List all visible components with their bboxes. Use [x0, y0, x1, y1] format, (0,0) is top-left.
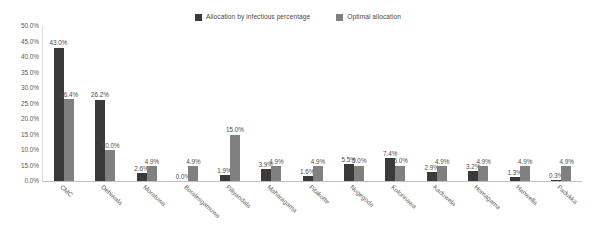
x-label-cell: Hanwella — [499, 183, 540, 233]
bar-value-label: 4.9% — [145, 159, 159, 165]
bar[interactable]: 2.9% — [427, 172, 437, 181]
x-label-cell: Boralesgamuwa — [167, 183, 208, 233]
y-axis-tick-10: 0.0% — [24, 178, 39, 184]
x-axis-label: Nugegoda — [349, 184, 375, 209]
bar-group: 3.2%4.9% — [458, 26, 499, 181]
bar-value-label: 4.9% — [559, 159, 573, 165]
y-axis-tick-7: 15.0% — [21, 131, 39, 137]
chart-legend: Allocation by infectious percentage Opti… — [0, 9, 596, 25]
bar-group: 2.6%4.9% — [126, 26, 167, 181]
x-axis-label: Hanwella — [515, 184, 539, 206]
x-label-cell: Dehiwala — [84, 183, 125, 233]
bar-value-label: 43.0% — [49, 40, 67, 46]
y-axis-tick-8: 10.0% — [21, 147, 39, 153]
x-label-cell: Piliyandala — [209, 183, 250, 233]
bar-group: 1.3%4.9% — [499, 26, 540, 181]
bar-group: 0.3%4.9% — [541, 26, 582, 181]
x-axis-label: Padukka — [556, 184, 579, 205]
legend-swatch-series-0 — [195, 14, 202, 21]
bar[interactable]: 15.0% — [230, 135, 240, 182]
y-axis-tick-0: 50.0% — [21, 23, 39, 29]
bar-value-label: 7.4% — [383, 151, 397, 157]
bar-value-label: 26.2% — [91, 92, 109, 98]
bar[interactable]: 4.9% — [271, 166, 281, 181]
bar-value-label: 15.0% — [226, 127, 244, 133]
bar[interactable]: 1.9% — [220, 175, 230, 181]
x-label-cell: Homagama — [458, 183, 499, 233]
bar-value-label: 5.0% — [352, 158, 366, 164]
bar-value-label: 4.9% — [311, 159, 325, 165]
bar-group: 43.0%26.4% — [43, 26, 84, 181]
x-axis-label: CMC — [58, 184, 73, 199]
x-axis-label: Pitakotte — [307, 184, 330, 205]
bar[interactable]: 10.0% — [105, 150, 115, 181]
y-axis-tick-1: 45.0% — [21, 38, 39, 44]
bar[interactable]: 4.9% — [188, 166, 198, 181]
x-axis-label: Piliyandala — [224, 184, 251, 209]
x-label-cell: Maharagama — [250, 183, 291, 233]
x-axis-label: Kaduwela — [432, 184, 457, 208]
bar-value-label: 4.9% — [477, 159, 491, 165]
bar-value-label: 5.0% — [394, 158, 408, 164]
x-axis-label: Moratuwa — [141, 184, 166, 208]
x-label-cell: Moratuwa — [126, 183, 167, 233]
x-label-cell: Kolonnawa — [375, 183, 416, 233]
bar-group: 1.9%15.0% — [209, 26, 250, 181]
bar[interactable]: 5.5% — [344, 164, 354, 181]
bar-value-label: 10.0% — [102, 143, 120, 149]
bar[interactable]: 3.9% — [261, 169, 271, 181]
bar[interactable]: 26.4% — [64, 99, 74, 181]
bar-groups: 43.0%26.4%26.2%10.0%2.6%4.9%0.0%4.9%1.9%… — [43, 26, 582, 181]
y-axis-tick-3: 35.0% — [21, 69, 39, 75]
bar[interactable]: 1.6% — [303, 176, 313, 181]
bar-value-label: 26.4% — [60, 92, 78, 98]
x-axis-label: Homagama — [473, 184, 502, 211]
bar-group: 7.4%5.0% — [375, 26, 416, 181]
bar[interactable]: 5.0% — [354, 166, 364, 182]
x-label-cell: CMC — [43, 183, 84, 233]
bar-value-label: 4.9% — [269, 159, 283, 165]
bar[interactable]: 4.9% — [478, 166, 488, 181]
x-axis-label: Dehiwala — [100, 184, 124, 206]
bar[interactable]: 3.2% — [468, 171, 478, 181]
y-axis-tick-5: 25.0% — [21, 100, 39, 106]
x-label-cell: Kaduwela — [416, 183, 457, 233]
bar[interactable]: 4.9% — [313, 166, 323, 181]
y-axis-tick-9: 15.0% — [21, 162, 39, 168]
bar-group: 5.5%5.0% — [333, 26, 374, 181]
x-axis-label: Kolonnawa — [390, 184, 418, 210]
x-axis-category-labels: CMCDehiwalaMoratuwaBoralesgamuwaPiliyand… — [43, 183, 582, 233]
legend-item-series-0: Allocation by infectious percentage — [195, 14, 310, 21]
bar[interactable]: 4.9% — [437, 166, 447, 181]
bar[interactable]: 1.3% — [510, 177, 520, 181]
bar[interactable]: 26.2% — [95, 100, 105, 181]
bar-value-label: 4.9% — [518, 159, 532, 165]
bar[interactable]: 2.6% — [137, 173, 147, 181]
legend-label-series-1: Optimal allocation — [347, 14, 401, 21]
bar[interactable]: 4.9% — [147, 166, 157, 181]
bar-value-label: 4.9% — [435, 159, 449, 165]
bar-group: 26.2%10.0% — [84, 26, 125, 181]
x-axis-line — [42, 181, 582, 182]
legend-label-series-0: Allocation by infectious percentage — [206, 14, 310, 21]
x-label-cell: Padukka — [541, 183, 582, 233]
bar-value-label: 4.9% — [186, 159, 200, 165]
bar[interactable]: 4.9% — [561, 166, 571, 181]
x-label-cell: Pitakotte — [292, 183, 333, 233]
bar[interactable]: 43.0% — [54, 48, 64, 181]
y-axis-tick-6: 20.0% — [21, 116, 39, 122]
bar-group: 2.9%4.9% — [416, 26, 457, 181]
bar-chart: Allocation by infectious percentage Opti… — [0, 0, 596, 234]
legend-swatch-series-1 — [336, 14, 343, 21]
bar-group: 0.0%4.9% — [167, 26, 208, 181]
bar[interactable]: 5.0% — [395, 166, 405, 182]
bar-group: 3.9%4.9% — [250, 26, 291, 181]
bar[interactable]: 0.3% — [551, 180, 561, 181]
y-axis-tick-2: 40.0% — [21, 54, 39, 60]
bar[interactable]: 4.9% — [520, 166, 530, 181]
legend-item-series-1: Optimal allocation — [336, 14, 401, 21]
bar-group: 1.6%4.9% — [292, 26, 333, 181]
y-axis-tick-4: 30.0% — [21, 85, 39, 91]
x-label-cell: Nugegoda — [333, 183, 374, 233]
